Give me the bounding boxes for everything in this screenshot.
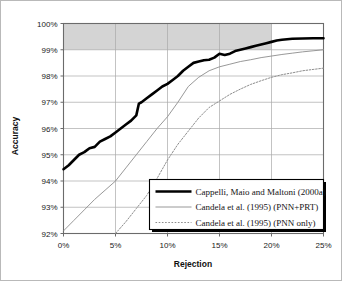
y-tick-label: 99% [41,46,57,55]
chart-figure: 92%93%94%95%96%97%98%99%100% 0%5%10%15%2… [0,0,342,281]
y-tick-label: 100% [37,20,57,29]
x-axis-title: Rejection [174,259,212,269]
accuracy-vs-rejection-chart: 92%93%94%95%96%97%98%99%100% 0%5%10%15%2… [1,1,342,281]
x-axis-tick-labels: 0%5%10%15%20%25% [58,241,332,250]
y-tick-label: 93% [41,203,57,212]
x-tick-label: 5% [110,241,122,250]
x-tick-label: 20% [263,241,279,250]
legend-label: Cappelli, Maio and Maltoni (2000a) [196,187,326,197]
x-tick-label: 15% [211,241,227,250]
y-tick-label: 98% [41,72,57,81]
y-axis-title: Accuracy [10,117,20,156]
y-tick-label: 92% [41,230,57,239]
y-axis-tick-labels: 92%93%94%95%96%97%98%99%100% [37,20,57,239]
y-tick-label: 94% [41,177,57,186]
y-tick-label: 95% [41,151,57,160]
x-tick-label: 25% [315,241,331,250]
chart-legend: Cappelli, Maio and Maltoni (2000a)Candel… [150,180,327,233]
legend-label: Candela et al. (1995) (PNN+PRT) [196,202,319,212]
x-tick-label: 10% [159,241,175,250]
legend-label: Candela et al. (1995) (PNN only) [196,218,316,228]
y-tick-label: 96% [41,125,57,134]
y-tick-label: 97% [41,98,57,107]
x-tick-label: 0% [58,241,70,250]
